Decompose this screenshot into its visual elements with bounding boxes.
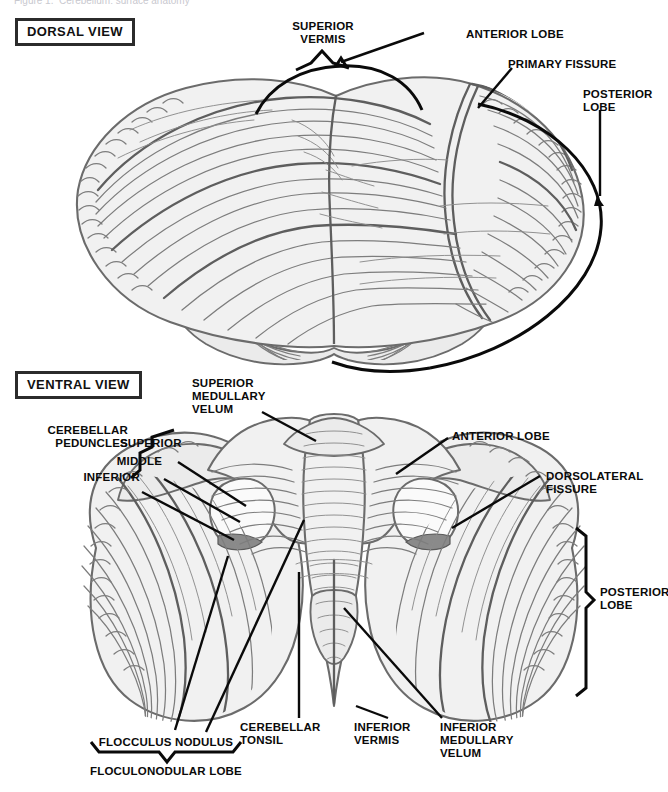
label-dorsolateral-fissure: DORSOLATERAL FISSURE (546, 470, 650, 496)
dorsal-view-title-box: DORSAL VIEW (15, 18, 135, 46)
diagram-page: Figure 1. Cerebellum: surface anatomy .t… (0, 0, 668, 792)
label-anterior-lobe-dorsal: ANTERIOR LOBE (466, 28, 564, 41)
label-flocculus-nodulus: FLOCCULUS NODULUS (96, 736, 236, 749)
label-peduncle-superior: SUPERIOR (120, 437, 178, 450)
label-posterior-lobe-dorsal: POSTERIOR LOBE (583, 88, 655, 114)
label-peduncle-inferior: INFERIOR (80, 471, 140, 484)
label-inferior-vermis: INFERIOR VERMIS (354, 721, 420, 747)
label-superior-medullary-velum: SUPERIOR MEDULLARY VELUM (192, 377, 292, 415)
label-primary-fissure: PRIMARY FISSURE (508, 58, 616, 71)
label-cerebellar-peduncles: CEREBELLAR PEDUNCLES (20, 424, 128, 450)
label-peduncle-middle: MIDDLE (110, 455, 162, 468)
label-floculonodular-lobe: FLOCULONODULAR LOBE (86, 765, 246, 778)
dorsal-cerebellum-drawing (77, 33, 604, 371)
ventral-view-title-box: VENTRAL VIEW (15, 371, 142, 399)
label-anterior-lobe-ventral: ANTERIOR LOBE (452, 430, 550, 443)
label-posterior-lobe-ventral: POSTERIOR LOBE (600, 586, 664, 612)
posterior-lobe-bracket-ventral (576, 528, 594, 696)
label-cerebellar-tonsil: CEREBELLAR TONSIL (240, 721, 316, 747)
inferior-vermis-leader (356, 706, 388, 718)
label-inferior-medullary-velum: INFERIOR MEDULLARY VELUM (440, 721, 524, 759)
label-superior-vermis: SUPERIOR VERMIS (278, 20, 368, 46)
